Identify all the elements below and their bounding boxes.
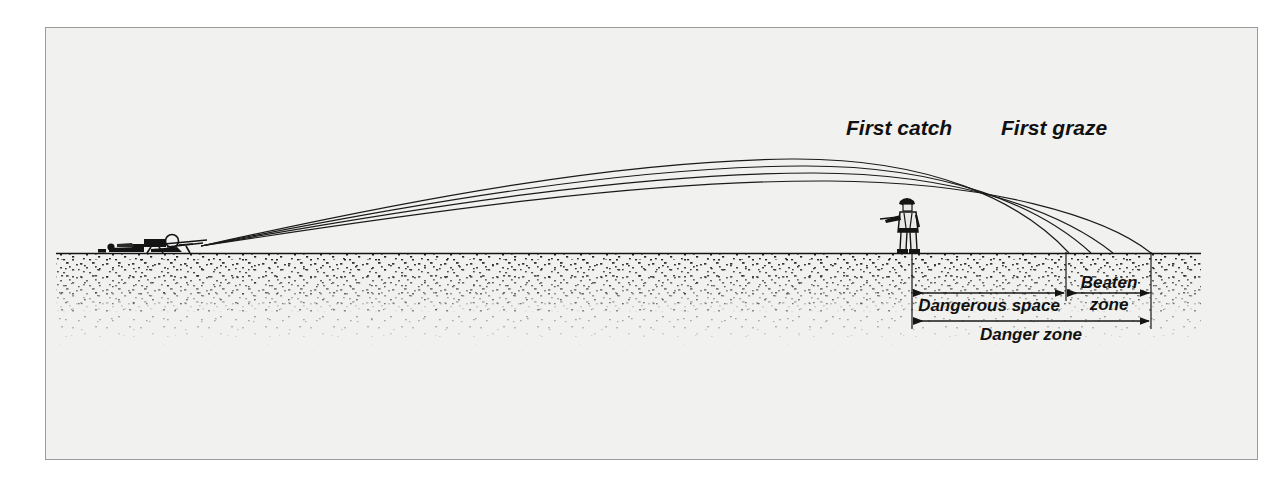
figure-frame: Dangerous space Beaten zone Danger zone …	[45, 27, 1258, 460]
danger-zone-label: Danger zone	[980, 325, 1082, 344]
callout-labels: First catch First graze	[846, 116, 1108, 139]
first-catch-label: First catch	[846, 116, 952, 139]
dimension-dangerous-space: Dangerous space	[914, 293, 1064, 315]
beaten-zone-label-line1: Beaten	[1081, 273, 1138, 292]
trajectory-4-longest	[201, 181, 1151, 253]
illustration-root: Dangerous space Beaten zone Danger zone …	[0, 0, 1286, 485]
trajectory-1-shortest	[201, 159, 1069, 253]
dangerous-space-label: Dangerous space	[918, 296, 1060, 315]
standing-soldier-figure	[880, 198, 920, 253]
first-graze-label: First graze	[1001, 116, 1108, 139]
trajectory-diagram: Dangerous space Beaten zone Danger zone …	[45, 27, 1258, 460]
trajectory-2	[201, 166, 1091, 253]
trajectory-bundle	[201, 159, 1151, 253]
beaten-zone-label-line2: zone	[1089, 295, 1129, 314]
machine-gun-and-crew	[98, 235, 207, 254]
trajectory-3	[201, 173, 1113, 253]
